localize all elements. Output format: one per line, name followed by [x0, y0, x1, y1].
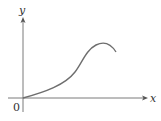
function-graph: y x 0 — [0, 0, 161, 121]
x-axis-label: x — [150, 92, 157, 105]
function-curve — [23, 43, 116, 98]
origin-label: 0 — [13, 101, 20, 114]
y-axis-label: y — [18, 4, 26, 17]
